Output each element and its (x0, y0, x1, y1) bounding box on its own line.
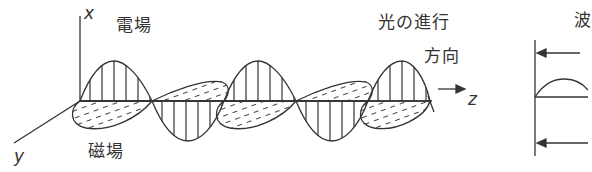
propagation-direction-label-line1: 光の進行 (378, 14, 450, 31)
electric-field-label: 電場 (116, 17, 152, 34)
wavelength-panel (535, 40, 588, 156)
y-axis-label: y (14, 148, 24, 165)
right-panel-title: 波 (574, 12, 592, 29)
magnetic-field-label: 磁場 (88, 143, 124, 160)
propagation-direction-label-line2: 方向 (424, 48, 460, 65)
propagation-arrow (438, 85, 465, 93)
z-axis-label: z (468, 91, 477, 108)
y-axis-line (14, 101, 80, 143)
x-axis-label: x (84, 5, 94, 22)
